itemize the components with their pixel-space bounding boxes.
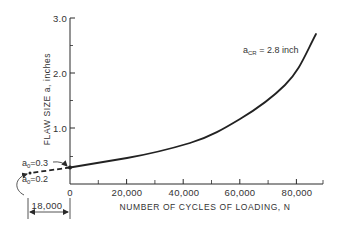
y-tick-3: 3.0: [53, 13, 67, 24]
x-tick-labels: 0 20,000 40,000 60,000 80,000: [67, 187, 312, 198]
x-tick-0: 0: [67, 187, 73, 198]
x-tick-40000: 40,000: [169, 187, 200, 198]
chart-container: 3.0 2.0 1.0 FLAW SIZE a, inches 0 20,000…: [0, 0, 339, 234]
a0-0.2-annotation: a0=0.2: [22, 174, 48, 185]
y-axis: [70, 18, 75, 184]
acr-annotation: aCR = 2.8 inch: [243, 45, 298, 56]
x-axis: [70, 179, 323, 184]
x-tick-20000: 20,000: [112, 187, 143, 198]
x-tick-60000: 60,000: [225, 187, 256, 198]
a0-0.3-arrow: [53, 162, 67, 166]
flaw-growth-chart: 3.0 2.0 1.0 FLAW SIZE a, inches 0 20,000…: [0, 0, 339, 234]
dimension-18000: 18,000: [28, 198, 70, 219]
extrapolation-dashed-line: [30, 168, 70, 174]
a0-0.3-annotation: a0=0.3: [22, 158, 48, 169]
y-tick-2: 2.0: [53, 68, 67, 79]
dimension-label: 18,000: [32, 200, 63, 211]
y-axis-title: FLAW SIZE a, inches: [42, 53, 52, 145]
y-tick-labels: 3.0 2.0 1.0: [53, 13, 67, 134]
y-tick-1: 1.0: [53, 123, 67, 134]
x-tick-80000: 80,000: [282, 187, 313, 198]
x-axis-title: NUMBER OF CYCLES OF LOADING, N: [119, 202, 290, 212]
